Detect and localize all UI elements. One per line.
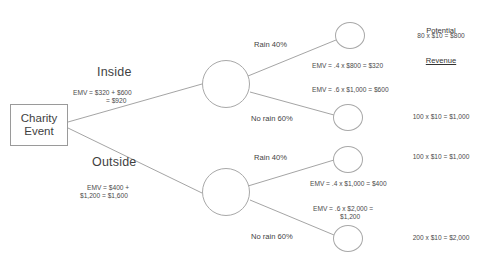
branch-label-inside: Inside xyxy=(97,65,132,79)
emv-outside-rain: EMV = .4 x $1,000 = $400 xyxy=(310,180,387,188)
probability-label-inside-rain: Rain 40% xyxy=(254,40,287,49)
revenue-value-outside-rain: 100 x $10 = $1,000 xyxy=(396,153,486,161)
terminal-node-inside-norain xyxy=(333,104,363,131)
edge-inside-to-norain xyxy=(250,92,334,115)
emv-outside-norain-line1: EMV = .6 x $2,000 = xyxy=(313,205,373,213)
root-label-line2: Event xyxy=(24,125,53,138)
terminal-node-inside-rain xyxy=(335,22,365,49)
emv-outside-line2: $1,200 = $1,600 xyxy=(80,192,128,200)
emv-inside-norain: EMV = .6 x $1,000 = $600 xyxy=(312,86,389,94)
probability-label-outside-norain: No rain 60% xyxy=(251,232,293,241)
probability-label-outside-rain: Rain 40% xyxy=(254,153,287,162)
probability-label-inside-norain: No rain 60% xyxy=(251,114,293,123)
emv-inside-rain: EMV = .4 x $800 = $320 xyxy=(312,62,383,70)
revenue-value-outside-norain: 200 x $10 = $2,000 xyxy=(396,234,486,242)
emv-inside-line1: EMV = $320 + $600 xyxy=(73,89,132,97)
root-label-line1: Charity xyxy=(21,112,57,125)
emv-outside-line1: EMV = $400 + xyxy=(87,184,129,192)
root-decision-node: Charity Event xyxy=(10,104,68,146)
chance-node-inside xyxy=(202,60,250,108)
chance-node-outside xyxy=(202,168,250,216)
revenue-value-inside-norain: 100 x $10 = $1,000 xyxy=(396,113,486,121)
revenue-column-header: Potential Revenue xyxy=(401,6,481,86)
emv-outside-norain-line2: $1,200 xyxy=(340,213,360,221)
emv-inside-line2: = $920 xyxy=(106,97,126,105)
decision-tree-diagram: Charity Event Inside EMV = $320 + $600 =… xyxy=(0,0,494,262)
branch-label-outside: Outside xyxy=(92,155,136,169)
terminal-node-outside-rain xyxy=(333,146,363,173)
revenue-value-inside-rain: 80 x $10 = $800 xyxy=(401,32,481,40)
revenue-header-line2: Revenue xyxy=(401,56,481,66)
terminal-node-outside-norain xyxy=(333,225,363,252)
